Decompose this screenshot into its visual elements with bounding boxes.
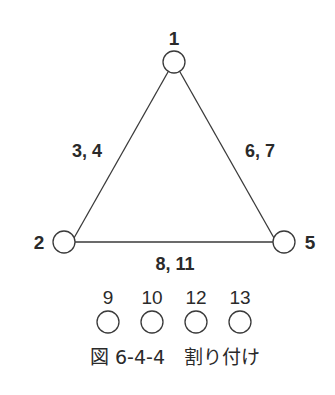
node-2-label: 2 bbox=[34, 232, 45, 253]
unassigned-node-12-circle bbox=[185, 311, 207, 333]
unassigned-node-9-label: 9 bbox=[103, 287, 114, 308]
node-5-circle bbox=[273, 231, 295, 253]
assignment-diagram: 1 2 5 3, 4 6, 7 8, 11 9 10 12 13 図 6-4-4… bbox=[0, 0, 335, 395]
edge-1-5-label: 6, 7 bbox=[245, 141, 275, 161]
node-5-label: 5 bbox=[305, 232, 316, 253]
figure-caption: 図 6-4-4 割り付け bbox=[90, 346, 260, 368]
node-2-circle bbox=[53, 231, 75, 253]
unassigned-node-13-label: 13 bbox=[229, 287, 250, 308]
unassigned-node-13-circle bbox=[229, 311, 251, 333]
unassigned-node-9-circle bbox=[97, 311, 119, 333]
edge-2-5-label: 8, 11 bbox=[155, 254, 194, 274]
unassigned-node-10-label: 10 bbox=[141, 287, 162, 308]
node-1-circle bbox=[163, 51, 185, 73]
unassigned-node-12-label: 12 bbox=[185, 287, 206, 308]
edge-1-2-label: 3, 4 bbox=[72, 141, 102, 161]
node-1-label: 1 bbox=[169, 28, 180, 49]
unassigned-node-10-circle bbox=[141, 311, 163, 333]
